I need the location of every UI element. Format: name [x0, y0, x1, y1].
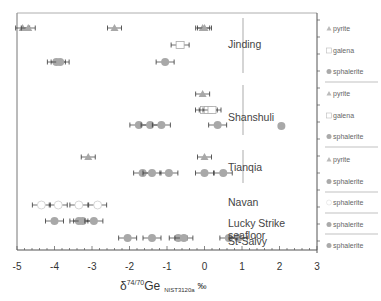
sphalerite-data-point — [94, 201, 102, 209]
legend: pyritegalenasphaleritepyritegalenasphale… — [325, 25, 378, 250]
x-tick-label: 1 — [239, 261, 245, 272]
sphalerite-data-point — [37, 201, 45, 209]
legend-circle-icon — [327, 69, 332, 74]
pyrite-data-point — [199, 90, 207, 97]
sphalerite-data-point — [148, 169, 156, 177]
pyrite-data-point — [84, 153, 92, 160]
galena-data-point — [208, 107, 216, 114]
sphalerite-data-point — [51, 217, 59, 225]
location-label-lucky-strike: Lucky Strike — [228, 217, 285, 229]
location-label-tianqia: Tianqia — [228, 161, 262, 173]
legend-square-icon — [327, 48, 332, 53]
location-label-jinding: Jinding — [228, 38, 261, 50]
x-tick-label: -5 — [13, 261, 22, 272]
legend-label: sphalerite — [333, 68, 363, 76]
x-tick-label: 3 — [314, 261, 320, 272]
legend-circle-icon — [327, 243, 332, 248]
legend-label: sphalerite — [333, 242, 363, 250]
x-tick-label: -3 — [88, 261, 97, 272]
sphalerite-data-point — [201, 169, 209, 177]
sphalerite-data-point — [148, 234, 156, 242]
legend-label: galena — [333, 112, 354, 120]
legend-label: pyrite — [333, 25, 350, 33]
location-label-shanshuli: Shanshuli — [228, 111, 274, 123]
pyrite-data-point — [201, 153, 209, 160]
sphalerite-data-point — [161, 58, 169, 66]
sphalerite-data-point — [214, 121, 222, 129]
legend-triangle-icon — [327, 91, 332, 96]
legend-circle-icon — [327, 179, 332, 184]
location-label-st-salvy: St-Salvy — [228, 235, 268, 247]
pyrite-data-point — [24, 24, 32, 31]
x-tick-label: -2 — [125, 261, 134, 272]
legend-triangle-icon — [327, 26, 332, 31]
legend-circle-icon — [327, 134, 332, 139]
legend-triangle-icon — [327, 157, 332, 162]
sphalerite-data-point — [54, 201, 62, 209]
location-label-navan: Navan — [228, 196, 259, 208]
pyrite-data-point — [111, 24, 119, 31]
legend-label: sphalerite — [333, 199, 363, 207]
legend-label: pyrite — [333, 156, 350, 164]
sphalerite-data-point — [165, 169, 173, 177]
axes: -5-4-3-2-10123 — [13, 13, 321, 272]
outlier-point — [277, 122, 285, 130]
sphalerite-data-point — [124, 234, 132, 242]
data-points — [16, 24, 286, 242]
legend-label: sphalerite — [333, 178, 363, 186]
ge-isotope-chart: -5-4-3-2-10123 pyritegalenasphaleritepyr… — [0, 0, 381, 301]
x-tick-label: -4 — [50, 261, 59, 272]
legend-open-circle-icon — [327, 200, 332, 205]
legend-label: galena — [333, 47, 354, 55]
sphalerite-data-point — [180, 234, 188, 242]
galena-data-point — [176, 42, 184, 49]
legend-label: sphalerite — [333, 221, 363, 229]
sphalerite-data-point — [157, 121, 165, 129]
sphalerite-data-point — [56, 58, 64, 66]
x-tick-label: 0 — [202, 261, 208, 272]
x-tick-label: -1 — [163, 261, 172, 272]
sphalerite-data-point — [219, 169, 227, 177]
legend-label: sphalerite — [333, 133, 363, 141]
x-axis-label: δ74/70GeNIST3120a‰ — [120, 279, 207, 293]
sphalerite-data-point — [75, 201, 83, 209]
sphalerite-data-point — [90, 217, 98, 225]
x-tick-label: 2 — [277, 261, 283, 272]
legend-square-icon — [327, 113, 332, 118]
legend-circle-icon — [327, 222, 332, 227]
legend-label: pyrite — [333, 90, 350, 98]
